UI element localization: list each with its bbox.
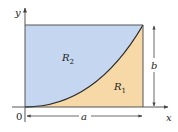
diagram-canvas: y x 0 a b R2 R1 [0,0,178,132]
origin-label: 0 [16,111,22,122]
width-label: a [81,111,87,122]
height-label: b [151,60,157,71]
x-axis-label: x [166,112,172,123]
y-axis-label: y [14,7,21,18]
